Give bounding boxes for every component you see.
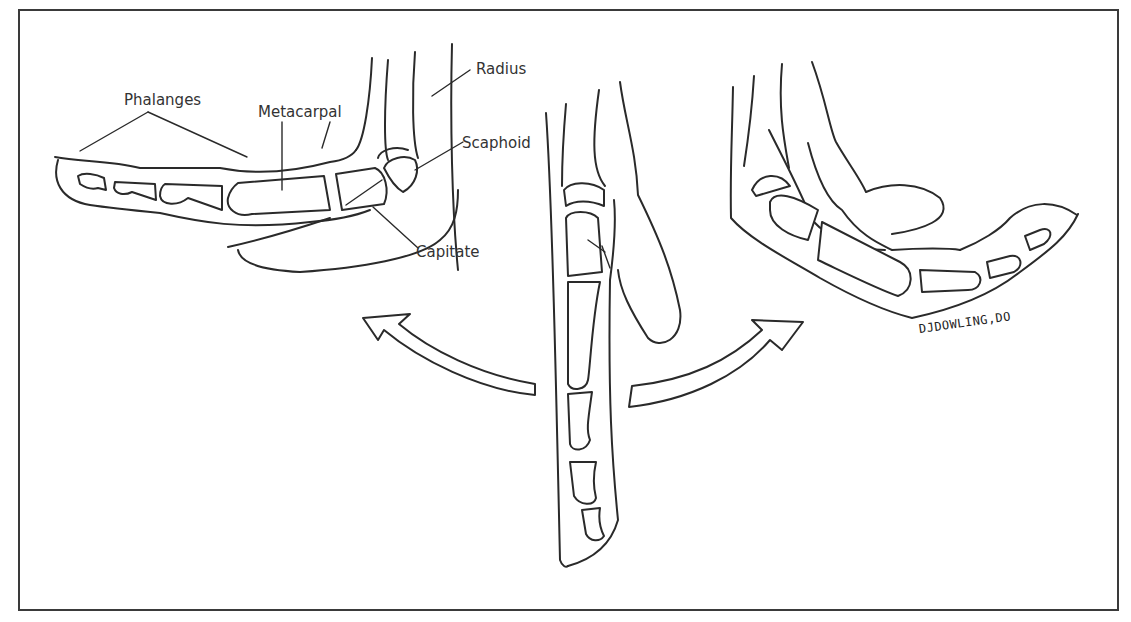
left-hand-extension [55, 44, 470, 272]
arrow-extension [363, 314, 535, 395]
label-radius: Radius [476, 62, 526, 77]
label-capitate: Capitate [416, 245, 480, 260]
right-hand-flexion [731, 62, 1078, 318]
label-phalanges: Phalanges [124, 93, 201, 108]
arrow-flexion [629, 320, 803, 407]
label-metacarpal: Metacarpal [258, 105, 342, 120]
center-hand-neutral [546, 82, 680, 567]
label-scaphoid: Scaphoid [462, 136, 531, 151]
